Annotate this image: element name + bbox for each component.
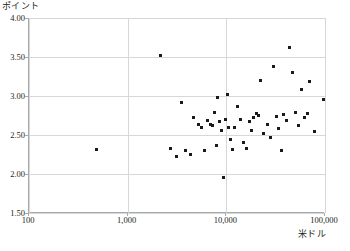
data-point bbox=[280, 149, 283, 152]
data-point bbox=[294, 111, 297, 114]
data-point bbox=[303, 116, 306, 119]
scatter-chart-figure: ポイント 4.003.503.002.502.001.50 1001,00010… bbox=[0, 0, 350, 251]
data-point bbox=[322, 98, 325, 101]
data-point bbox=[211, 124, 214, 127]
data-point bbox=[180, 101, 183, 104]
gridline-horizontal bbox=[29, 135, 325, 136]
data-point bbox=[169, 147, 172, 150]
y-tick-label: 3.00 bbox=[10, 92, 25, 101]
gridline-horizontal bbox=[29, 213, 325, 214]
y-tick-label: 4.00 bbox=[10, 14, 25, 23]
data-point bbox=[239, 118, 242, 121]
data-point bbox=[95, 148, 98, 151]
gridline-horizontal bbox=[29, 57, 325, 58]
data-point bbox=[285, 119, 288, 122]
data-point bbox=[227, 126, 230, 129]
data-point bbox=[262, 132, 265, 135]
data-point bbox=[306, 112, 309, 115]
data-point bbox=[277, 127, 280, 130]
gridline-horizontal bbox=[29, 18, 325, 19]
data-point bbox=[218, 120, 221, 123]
data-point bbox=[222, 176, 225, 179]
x-tick-label: 100,000 bbox=[284, 216, 350, 225]
data-point bbox=[215, 144, 218, 147]
data-point bbox=[313, 130, 316, 133]
y-tick-label: 2.00 bbox=[10, 170, 25, 179]
x-tick-label: 10,000 bbox=[185, 216, 265, 225]
data-point bbox=[226, 93, 229, 96]
y-tick-mark bbox=[25, 57, 28, 58]
data-point bbox=[236, 105, 239, 108]
data-point bbox=[259, 79, 262, 82]
data-point bbox=[203, 149, 206, 152]
data-point bbox=[308, 80, 311, 83]
y-tick-mark bbox=[25, 18, 28, 19]
y-tick-mark bbox=[25, 96, 28, 97]
x-axis-title: 米ドル bbox=[298, 228, 326, 240]
gridline-vertical bbox=[226, 18, 227, 213]
y-tick-mark bbox=[25, 174, 28, 175]
x-tick-mark bbox=[127, 213, 128, 216]
y-tick-label: 2.50 bbox=[10, 131, 25, 140]
data-point bbox=[213, 111, 216, 114]
data-point bbox=[297, 124, 300, 127]
plot-area bbox=[28, 18, 324, 213]
x-tick-label: 1,000 bbox=[87, 216, 167, 225]
data-point bbox=[224, 118, 227, 121]
data-point bbox=[216, 96, 219, 99]
gridline-horizontal bbox=[29, 174, 325, 175]
data-point bbox=[184, 149, 187, 152]
gridline-vertical bbox=[325, 18, 326, 213]
data-point bbox=[220, 129, 223, 132]
data-point bbox=[300, 88, 303, 91]
data-point bbox=[250, 129, 253, 132]
gridline-horizontal bbox=[29, 96, 325, 97]
data-point bbox=[266, 123, 269, 126]
data-point bbox=[192, 116, 195, 119]
data-point bbox=[245, 147, 248, 150]
data-point bbox=[233, 126, 236, 129]
data-point bbox=[252, 116, 255, 119]
data-point bbox=[272, 65, 275, 68]
data-point bbox=[282, 113, 285, 116]
data-point bbox=[159, 54, 162, 57]
x-tick-mark bbox=[324, 213, 325, 216]
x-tick-mark bbox=[28, 213, 29, 216]
y-tick-label: 3.50 bbox=[10, 53, 25, 62]
data-point bbox=[248, 120, 251, 123]
data-point bbox=[242, 141, 245, 144]
data-point bbox=[200, 126, 203, 129]
gridline-vertical bbox=[29, 18, 30, 213]
data-point bbox=[189, 153, 192, 156]
data-point bbox=[175, 155, 178, 158]
data-point bbox=[231, 148, 234, 151]
data-point bbox=[275, 115, 278, 118]
data-point bbox=[257, 114, 260, 117]
gridline-vertical bbox=[128, 18, 129, 213]
x-tick-mark bbox=[225, 213, 226, 216]
data-point bbox=[269, 136, 272, 139]
y-tick-mark bbox=[25, 135, 28, 136]
x-tick-label: 100 bbox=[0, 216, 68, 225]
y-axis-title: ポイント bbox=[2, 0, 39, 12]
data-point bbox=[291, 71, 294, 74]
data-point bbox=[229, 138, 232, 141]
data-point bbox=[288, 46, 291, 49]
